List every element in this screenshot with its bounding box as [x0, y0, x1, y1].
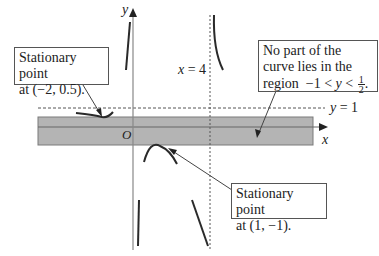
callout-right-line1: Stationary point	[236, 186, 322, 218]
callout-left-line1: Stationary point	[19, 50, 104, 82]
callout-region-line3: region −1 < y < 12.	[263, 75, 373, 94]
fraction-denominator: 2	[358, 85, 365, 94]
x-axis-label: x	[322, 132, 328, 148]
region-mid: <	[342, 76, 357, 91]
excluded-region-band	[38, 117, 313, 145]
callout-region-line2: curve lies in the	[263, 59, 373, 75]
y-axis-arrow-icon	[129, 8, 137, 17]
origin-label: O	[122, 127, 131, 143]
callout-excluded-region: No part of the curve lies in the region …	[258, 40, 378, 92]
region-fraction: 12	[358, 75, 365, 94]
pointer-right-stationary	[171, 150, 232, 190]
horizontal-asymptote-eq: = 1	[340, 100, 358, 115]
vertical-asymptote-var: x	[178, 62, 184, 77]
vertical-asymptote-label: x = 4	[178, 62, 206, 78]
curve-middle-maximum-branch	[144, 145, 177, 164]
curve-upper-left-branch	[126, 22, 130, 70]
curve-lower-left-branch	[138, 200, 139, 246]
callout-left-stationary-point: Stationary point at (−2, 0.5).	[14, 47, 109, 85]
horizontal-asymptote-var: y	[330, 100, 336, 115]
y-axis-label: y	[122, 2, 128, 18]
curve-lower-right-branch	[192, 200, 208, 246]
callout-right-line2: at (1, −1).	[236, 218, 322, 234]
curve-upper-right-branch	[214, 15, 223, 70]
region-prefix: region −1 <	[263, 76, 336, 91]
x-axis-arrow-icon	[319, 123, 328, 131]
vertical-asymptote-eq: = 4	[188, 62, 206, 77]
horizontal-asymptote-label: y = 1	[330, 100, 358, 116]
callout-right-stationary-point: Stationary point at (1, −1).	[231, 183, 327, 219]
callout-left-line2: at (−2, 0.5).	[19, 82, 104, 98]
curve-left-minimum-branch	[76, 112, 113, 117]
region-suffix: .	[365, 76, 369, 91]
callout-region-line1: No part of the	[263, 43, 373, 59]
